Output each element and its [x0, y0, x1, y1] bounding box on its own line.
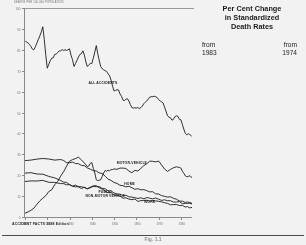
y-axis-tick-label: 40 — [17, 132, 20, 136]
stats-from-label-right: from — [250, 41, 298, 49]
stats-rows — [198, 64, 306, 92]
y-axis-tick-label: 10 — [17, 195, 20, 199]
y-axis-tick-label: 60 — [17, 91, 20, 95]
chart-panel: DEATHS PER 100,000 POPULATION 0102030405… — [0, 0, 196, 232]
y-axis-tick-label: 0 — [19, 216, 21, 220]
y-axis-tick-label: 80 — [17, 49, 20, 53]
y-axis-tick: 20 — [22, 175, 25, 176]
y-axis-tick: 100 — [22, 8, 25, 9]
x-axis-tick: 1970 — [159, 217, 160, 220]
stats-header-left: from 1983 — [202, 41, 250, 57]
chart-line-motor-vehicle — [25, 157, 192, 213]
x-axis-tick-label: 1970 — [156, 222, 162, 226]
y-axis-tick: 40 — [22, 133, 25, 134]
y-axis-tick: 30 — [22, 154, 25, 155]
stats-title-line3: Death Rates — [200, 22, 304, 31]
stats-column-headers: from 1983 from 1974 — [202, 41, 302, 57]
y-axis-tick: 90 — [22, 29, 25, 30]
y-axis-tick: 60 — [22, 92, 25, 93]
series-label: WORK — [144, 200, 155, 204]
x-axis-tick: 1910 — [25, 217, 26, 220]
x-axis-tick: 1940 — [92, 217, 93, 220]
x-axis-tick-label: 1980 — [179, 222, 185, 226]
y-axis-tick-label: 90 — [17, 28, 20, 32]
y-axis-tick-label: 30 — [17, 153, 20, 157]
source-note: ACCIDENT FACTS 1988 Edition — [12, 222, 69, 226]
series-label: PUBLICNON-MOTOR VEHICLE — [85, 190, 124, 198]
figure-caption: Fig. 1.1 — [0, 236, 306, 242]
stats-header-right: from 1974 — [250, 41, 303, 57]
y-axis-tick: 80 — [22, 50, 25, 51]
stats-panel: Per Cent Change in Standardized Death Ra… — [198, 0, 306, 232]
stats-year-right: 1974 — [250, 49, 298, 57]
x-axis-tick-label: 1950 — [112, 222, 118, 226]
chart-axis-note: DEATHS PER 100,000 POPULATION — [14, 1, 64, 4]
x-axis-tick: 1950 — [114, 217, 115, 220]
y-axis-tick-label: 50 — [17, 112, 20, 116]
series-label: ALL ACCIDENTS — [88, 81, 117, 85]
series-label: MOTOR-VEHICLE — [117, 161, 147, 165]
stats-title-line1: Per Cent Change — [200, 4, 304, 13]
y-axis-tick: 50 — [22, 113, 25, 114]
x-axis-tick: 1920 — [47, 217, 48, 220]
x-axis-tick: 1930 — [70, 217, 71, 220]
accident-death-rates-figure: DEATHS PER 100,000 POPULATION 0102030405… — [0, 0, 306, 245]
y-axis-tick-label: 70 — [17, 70, 20, 74]
series-label: HOME — [124, 182, 135, 186]
x-axis-tick-label: 1940 — [90, 222, 96, 226]
stats-from-label-left: from — [202, 41, 250, 49]
stats-year-left: 1983 — [202, 49, 250, 57]
chart-axes: 0102030405060708090100191019201930194019… — [24, 8, 192, 218]
y-axis-tick-label: 100 — [15, 7, 20, 11]
y-axis-tick: 10 — [22, 196, 25, 197]
chart-series-lines — [25, 8, 192, 217]
stats-title: Per Cent Change in Standardized Death Ra… — [200, 4, 304, 32]
stats-title-line2: in Standardized — [200, 13, 304, 22]
x-axis-tick: 1960 — [136, 217, 137, 220]
x-axis-tick-label: 1960 — [134, 222, 140, 226]
y-axis-tick: 70 — [22, 71, 25, 72]
y-axis-tick-label: 20 — [17, 174, 20, 178]
x-axis-tick: 1980 — [181, 217, 182, 220]
